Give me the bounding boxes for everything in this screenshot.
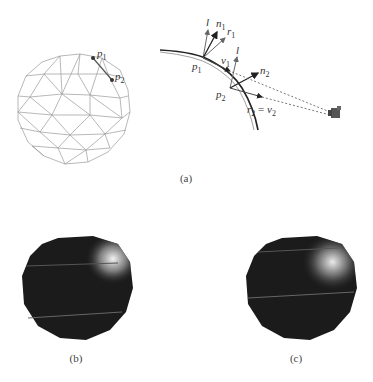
- caption-c: (c): [290, 352, 302, 364]
- vertex-p1: [91, 56, 95, 60]
- svg-text:n2: n2: [260, 64, 270, 79]
- svg-text:p1: p1: [191, 60, 202, 75]
- caption-a: (a): [180, 172, 192, 184]
- caption-b: (b): [70, 352, 83, 364]
- label-l1: l: [206, 16, 209, 28]
- svg-text:n1: n1: [216, 17, 226, 32]
- camera-icon: [328, 106, 341, 118]
- svg-text:p2: p2: [215, 88, 226, 103]
- reflection-diagram: l n1 r1 v1 p1 l n2 p2 r2 = v2: [150, 0, 373, 140]
- label-l2: l: [236, 44, 239, 56]
- svg-text:r1: r1: [227, 25, 235, 40]
- rendered-sphere-c: [242, 232, 362, 342]
- surface-curve: [160, 50, 258, 130]
- rendered-sphere-b: [18, 232, 138, 342]
- svg-text:p2: p2: [114, 70, 125, 85]
- vertex-p2: [110, 78, 114, 82]
- arrow-n2: [230, 73, 258, 88]
